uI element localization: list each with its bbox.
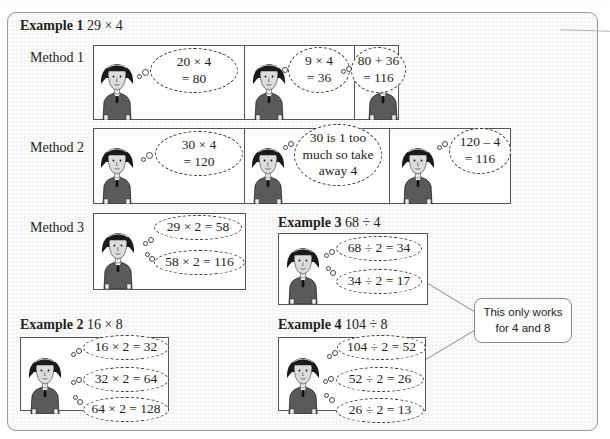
girl-figure-icon bbox=[249, 56, 289, 120]
thought-bubble: 29 × 2 = 58 bbox=[154, 215, 242, 240]
thought-bubble: 20 × 4 = 80 bbox=[150, 48, 238, 93]
example-4-title: Example 4 104 ÷ 8 bbox=[278, 317, 388, 333]
thought-bubble: 64 × 2 = 128 bbox=[83, 397, 169, 422]
thought-dot bbox=[142, 69, 149, 76]
example-3-title: Example 3 68 ÷ 4 bbox=[278, 215, 381, 231]
thought-dot bbox=[329, 249, 335, 255]
girl-figure-icon bbox=[25, 350, 65, 414]
method-3-label: Method 3 bbox=[30, 220, 84, 236]
thought-bubble: 26 ÷ 2 = 13 bbox=[336, 398, 424, 423]
example-1-expression: 29 × 4 bbox=[87, 18, 123, 33]
panel-divider bbox=[389, 129, 390, 203]
thought-dot bbox=[146, 152, 153, 159]
thought-dot bbox=[77, 399, 83, 405]
girl-figure-icon bbox=[283, 350, 323, 414]
callout-note: This only works for 4 and 8 bbox=[474, 298, 572, 343]
thought-bubble: 52 ÷ 2 = 26 bbox=[336, 367, 424, 392]
thought-dot bbox=[329, 397, 335, 403]
girl-figure-icon bbox=[248, 140, 288, 204]
example-2-label: Example 2 bbox=[20, 317, 83, 332]
thought-dot bbox=[71, 352, 76, 357]
thought-dot bbox=[143, 241, 148, 246]
thought-bubble: 104 ÷ 2 = 52 bbox=[337, 335, 426, 360]
example-3-label: Example 3 bbox=[278, 215, 341, 230]
thought-dot bbox=[76, 377, 82, 383]
example-2-title: Example 2 16 × 8 bbox=[20, 317, 123, 333]
panel-divider bbox=[244, 46, 245, 119]
thought-bubble: 58 × 2 = 116 bbox=[154, 250, 245, 275]
thought-dot bbox=[324, 393, 329, 398]
thought-bubble: 120 – 4 = 116 bbox=[449, 128, 511, 174]
page-top-strip bbox=[0, 0, 609, 8]
thought-dot bbox=[328, 376, 334, 382]
example-1-title: Example 1 29 × 4 bbox=[20, 18, 123, 34]
method-1-panels bbox=[93, 45, 399, 120]
girl-figure-icon bbox=[97, 140, 137, 204]
thought-dot bbox=[283, 145, 288, 150]
thought-dot bbox=[437, 145, 442, 150]
example-1-label: Example 1 bbox=[20, 18, 83, 33]
example-4-expression: 104 ÷ 8 bbox=[345, 317, 388, 332]
example-3-expression: 68 ÷ 4 bbox=[345, 215, 381, 230]
panel-divider bbox=[244, 129, 245, 203]
thought-dot bbox=[442, 141, 448, 147]
thought-dot bbox=[330, 270, 336, 276]
thought-dot bbox=[288, 141, 294, 147]
thought-bubble: 34 ÷ 2 = 17 bbox=[336, 269, 422, 294]
example-4-label: Example 4 bbox=[278, 317, 341, 332]
thought-bubble: 30 × 4 = 120 bbox=[155, 131, 243, 176]
thought-dot bbox=[324, 253, 329, 258]
thought-bubble: 30 is 1 too much so take away 4 bbox=[294, 124, 382, 186]
method-1-label: Method 1 bbox=[30, 50, 84, 66]
girl-figure-icon bbox=[97, 56, 137, 120]
thought-dot bbox=[137, 74, 142, 79]
thought-bubble: 32 × 2 = 64 bbox=[83, 367, 169, 392]
thought-bubble: 80 + 36 = 116 bbox=[351, 47, 406, 93]
girl-figure-icon bbox=[283, 240, 323, 304]
thought-dot bbox=[332, 350, 338, 356]
thought-dot bbox=[141, 157, 146, 162]
thought-dot bbox=[76, 348, 82, 354]
girl-figure-icon bbox=[398, 140, 438, 204]
thought-bubble: 68 ÷ 2 = 34 bbox=[336, 236, 422, 261]
thought-dot bbox=[327, 354, 332, 359]
thought-bubble: 16 × 2 = 32 bbox=[83, 335, 169, 360]
thought-dot bbox=[148, 237, 154, 243]
method-2-label: Method 2 bbox=[30, 140, 84, 156]
example-2-expression: 16 × 8 bbox=[87, 317, 123, 332]
girl-figure-icon bbox=[98, 225, 138, 289]
